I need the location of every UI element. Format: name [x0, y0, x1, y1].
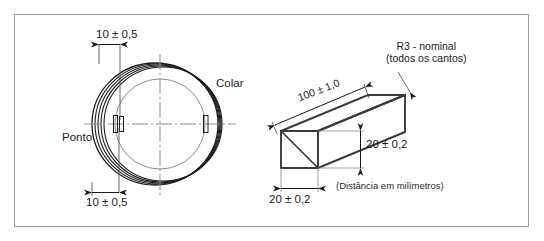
circular-collar-view — [84, 44, 236, 196]
collar-callout-label: Colar — [216, 77, 243, 90]
point-callout-label: Ponto — [62, 131, 92, 144]
radius-callout-line2: (todos os cantos) — [386, 52, 467, 64]
isometric-bar-view — [272, 72, 410, 192]
bar-side-face — [318, 95, 405, 168]
technical-drawing-figure: 10 ± 0,5 10 ± 0,5 Colar Ponto R3 - nomin… — [0, 0, 544, 241]
top-dimension-label: 10 ± 0,5 — [96, 28, 137, 41]
radius-callout-line1: R3 - nominal — [386, 40, 467, 52]
bar-face-diagonal — [281, 131, 318, 168]
height-dimension-label: 20 ± 0,2 — [366, 138, 407, 151]
radius-callout-leader — [398, 72, 410, 92]
radius-callout: R3 - nominal (todos os cantos) — [386, 40, 467, 64]
bottom-dimension-label: 10 ± 0,5 — [86, 196, 127, 209]
units-note-label: (Distância em milímetros) — [336, 181, 444, 192]
width-dimension-label: 20 ± 0,2 — [269, 193, 310, 206]
length-dimension-extension-near — [272, 122, 277, 134]
